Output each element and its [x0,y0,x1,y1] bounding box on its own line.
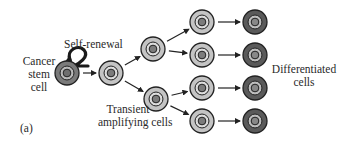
cells-group [55,10,267,133]
transient-amplifying-icon [190,43,214,67]
label-line: Differentiated [271,63,337,76]
label-line: cells [271,76,337,89]
label-line: stem [22,68,56,81]
label-line: Transient [98,103,158,116]
cancer-stem-cell-label: Cancer stem cell [22,55,56,94]
transient-amplifying-icon [190,109,214,133]
panel-label: (a) [20,122,33,135]
label-line: cell [22,81,56,94]
self-renewal-label: Self-renewal [64,38,123,51]
arrow-ta1-to-ta2b [125,81,143,91]
transient-amplifying-icon [190,10,214,34]
cancer-stem-cell-icon [55,61,79,85]
arrow-ta1-to-ta2a [125,56,140,65]
differentiated-icon [243,43,267,67]
transient-amplifying-label: Transient amplifying cells [98,103,158,129]
transient-amplifying-icon [141,37,165,61]
differentiated-icon [243,10,267,34]
transient-amplifying-icon [99,61,123,85]
differentiated-icon [243,76,267,100]
label-line: Cancer [22,55,56,68]
arrow-ta2b-to-ta3d [170,106,188,115]
arrow-ta2a-to-ta3b [169,51,187,53]
arrow-ta2a-to-ta3a [167,29,189,41]
transient-amplifying-icon [190,76,214,100]
arrow-ta2b-to-ta3c [172,91,188,95]
differentiated-cells-label: Differentiated cells [271,63,337,89]
differentiated-icon [243,109,267,133]
label-line: amplifying cells [98,116,158,129]
